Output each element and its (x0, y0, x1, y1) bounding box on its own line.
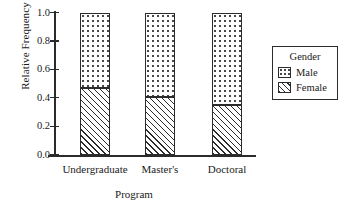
y-tick-label: 1.0 (24, 8, 50, 18)
bar-undergraduate[interactable] (80, 13, 110, 155)
legend-item-male[interactable]: Male (278, 66, 332, 79)
hatched-swatch-icon (278, 82, 291, 93)
stacked-bar-chart: Relative Frequency 1.0 0.8 0.6 0.4 0.2 0… (0, 0, 352, 213)
legend-label-female: Female (296, 82, 327, 93)
y-tick-label: 0.8 (24, 36, 50, 46)
y-tick-label: 0.2 (24, 121, 50, 131)
y-axis-tick-labels: 1.0 0.8 0.6 0.4 0.2 0.0 (22, 0, 50, 213)
legend-item-female[interactable]: Female (278, 81, 332, 94)
bar-segment-male[interactable] (80, 13, 110, 88)
bar-segment-female[interactable] (212, 105, 242, 155)
bar-doctoral[interactable] (212, 13, 242, 155)
bar-masters[interactable] (145, 13, 175, 155)
bar-segment-male[interactable] (145, 13, 175, 97)
y-tick-label: 0.0 (24, 150, 50, 160)
x-category-label-undergraduate: Undergraduate (62, 163, 127, 175)
y-tick-mark (50, 126, 59, 127)
x-category-label-masters: Master's (142, 163, 179, 175)
y-tick-mark (50, 154, 59, 155)
y-axis-line (54, 11, 56, 155)
x-category-label-doctoral: Doctoral (208, 163, 246, 175)
y-tick-mark (50, 97, 59, 98)
bar-segment-female[interactable] (145, 97, 175, 155)
x-axis-title: Program (0, 188, 268, 200)
legend: Gender Male Female (272, 46, 338, 100)
y-tick-mark (50, 40, 59, 41)
y-tick-mark (50, 69, 59, 70)
bar-segment-male[interactable] (212, 13, 242, 105)
plot-area (54, 13, 254, 155)
legend-title: Gender (278, 51, 332, 63)
y-tick-mark (50, 12, 59, 13)
legend-label-male: Male (296, 67, 318, 78)
y-tick-label: 0.6 (24, 64, 50, 74)
dotted-swatch-icon (278, 67, 291, 78)
x-axis-line (48, 155, 256, 157)
y-tick-label: 0.4 (24, 93, 50, 103)
bar-segment-female[interactable] (80, 88, 110, 155)
